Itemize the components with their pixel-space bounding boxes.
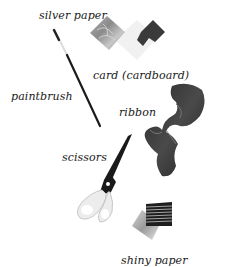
label-card: card (cardboard) xyxy=(93,69,189,82)
label-paintbrush: paintbrush xyxy=(11,90,73,103)
label-shiny-paper: shiny paper xyxy=(121,254,188,267)
craft-materials-illustration: silver paper card (cardboard) paintbrush… xyxy=(0,0,225,267)
shiny-paper-icon xyxy=(128,200,178,248)
scissors-icon xyxy=(70,132,135,227)
ribbon-icon xyxy=(140,82,210,180)
